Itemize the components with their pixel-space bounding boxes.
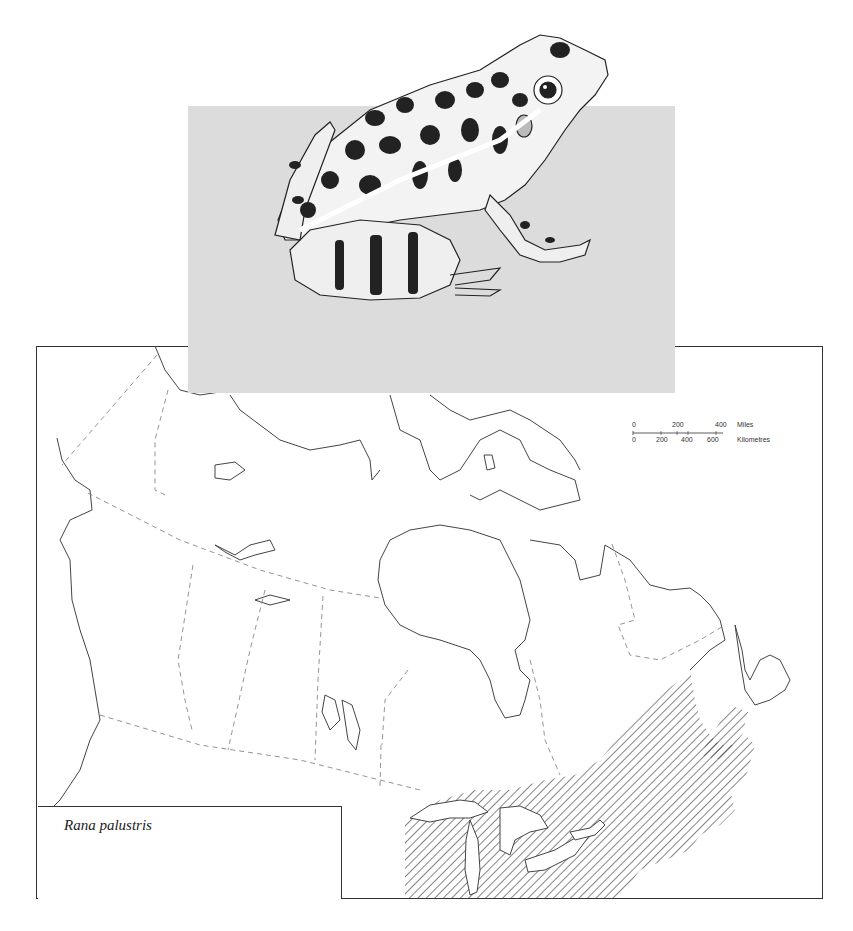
miles-tick-200: 200: [672, 421, 684, 428]
frog-illustration: [0, 0, 853, 931]
species-legend-box: Rana palustris: [38, 806, 342, 899]
km-tick-400: 400: [681, 436, 693, 443]
miles-unit-label: Miles: [737, 421, 753, 428]
km-tick-200: 200: [656, 436, 668, 443]
km-unit-label: Kilometres: [737, 436, 770, 443]
miles-tick-0: 0: [632, 421, 636, 428]
km-tick-0: 0: [632, 436, 636, 443]
km-tick-600: 600: [707, 436, 719, 443]
scale-bar: 0 200 400 Miles 0 200 400 600 Kilometres: [632, 421, 812, 451]
miles-tick-400: 400: [715, 421, 727, 428]
species-name-label: Rana palustris: [64, 817, 152, 834]
